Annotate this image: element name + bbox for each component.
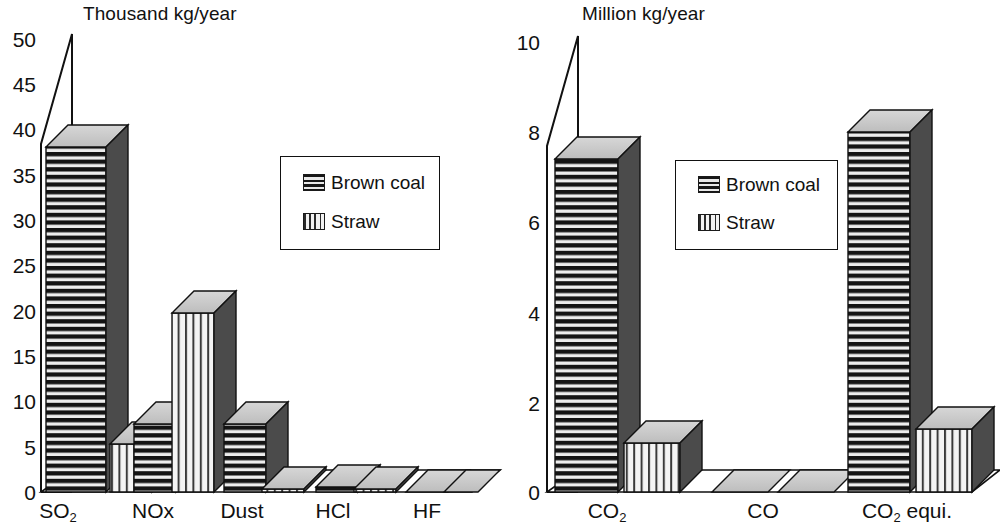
straw-swatch-icon (698, 214, 720, 231)
straw-swatch-icon (303, 213, 325, 230)
right-legend-label-straw: Straw (726, 213, 775, 232)
brown-coal-swatch-icon (303, 174, 325, 191)
bar-co2-straw (624, 421, 702, 492)
dual-bar-chart-figure: Thousand kg/year 50 45 40 35 30 25 20 15… (0, 0, 1000, 528)
brown-coal-swatch-icon (698, 176, 720, 193)
left-legend: Brown coal Straw (280, 156, 440, 250)
right-legend-item-straw: Straw (698, 213, 837, 232)
left-plot-svg (0, 0, 500, 528)
bar-group-dust (224, 402, 326, 492)
bar-co2-equi-straw (916, 407, 994, 492)
right-legend-label-brown-coal: Brown coal (726, 175, 820, 194)
right-chart-panel: Million kg/year 10 8 6 4 2 0 CO2 CO CO2 … (500, 0, 1000, 528)
left-legend-item-brown-coal: Brown coal (303, 173, 439, 192)
left-legend-label-straw: Straw (331, 212, 380, 231)
left-legend-item-straw: Straw (303, 212, 439, 231)
left-legend-label-brown-coal: Brown coal (331, 173, 425, 192)
bar-group-co2-equi (848, 110, 994, 492)
bar-co2-brown-coal (555, 137, 640, 492)
left-chart-panel: Thousand kg/year 50 45 40 35 30 25 20 15… (0, 0, 500, 528)
bar-group-nox (134, 291, 236, 492)
right-plot-svg (500, 0, 1000, 528)
bar-so2-brown-coal (46, 125, 128, 492)
right-legend-item-brown-coal: Brown coal (698, 175, 837, 194)
right-legend: Brown coal Straw (675, 160, 838, 250)
